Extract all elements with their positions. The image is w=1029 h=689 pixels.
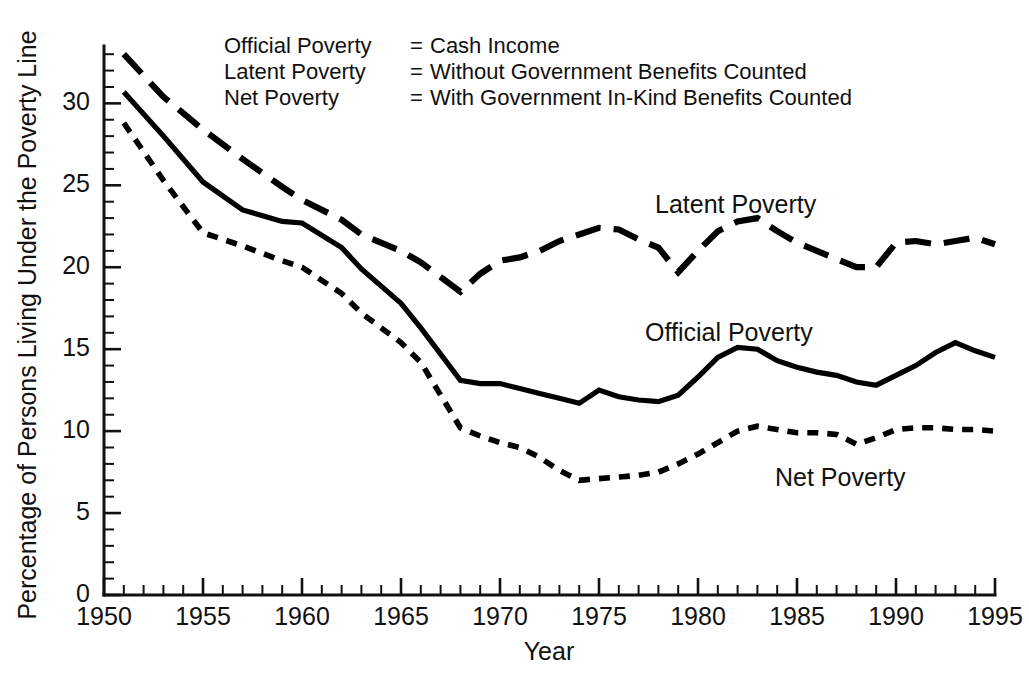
legend-row-0-name: Official Poverty	[224, 33, 372, 58]
legend-row-1-equals: =	[410, 59, 423, 84]
x-tick-label-1975: 1975	[571, 602, 627, 630]
legend-row-2-definition: With Government In-Kind Benefits Counted	[430, 85, 852, 110]
poverty-line-chart: Percentage of Persons Living Under the P…	[0, 0, 1029, 689]
legend-block: Official Poverty = Cash Income Latent Po…	[224, 33, 852, 110]
series-line-net-poverty	[124, 123, 995, 480]
legend-row-0-definition: Cash Income	[430, 33, 560, 58]
x-tick-label-1995: 1995	[967, 602, 1023, 630]
legend-row-1-definition: Without Government Benefits Counted	[430, 59, 807, 84]
y-tick-label-30: 30	[62, 87, 90, 115]
legend-row-2-name: Net Poverty	[224, 85, 339, 110]
x-axis-title: Year	[524, 637, 575, 665]
x-tick-label-1980: 1980	[670, 602, 726, 630]
legend-row-2-equals: =	[410, 85, 423, 110]
x-axis-ticks	[104, 578, 995, 595]
x-tick-label-1965: 1965	[373, 602, 429, 630]
x-tick-label-1990: 1990	[868, 602, 924, 630]
y-tick-label-20: 20	[62, 251, 90, 279]
series-paths	[124, 54, 995, 480]
y-axis-title: Percentage of Persons Living Under the P…	[13, 30, 41, 619]
x-axis-tick-labels: 1950195519601965197019751980198519901995	[76, 602, 1023, 630]
y-axis-ticks	[104, 54, 121, 595]
legend-row-1-name: Latent Poverty	[224, 59, 366, 84]
y-tick-label-5: 5	[76, 497, 90, 525]
series-annotation-latent: Latent Poverty	[655, 190, 817, 218]
x-tick-label-1960: 1960	[274, 602, 330, 630]
series-annotation-net: Net Poverty	[775, 463, 906, 491]
y-tick-label-10: 10	[62, 415, 90, 443]
chart-figure: Percentage of Persons Living Under the P…	[0, 0, 1029, 689]
x-tick-label-1985: 1985	[769, 602, 825, 630]
legend-row-0-equals: =	[410, 33, 423, 58]
x-tick-label-1970: 1970	[472, 602, 528, 630]
y-tick-label-25: 25	[62, 169, 90, 197]
series-annotation-official: Official Poverty	[645, 318, 813, 346]
x-tick-label-1955: 1955	[175, 602, 231, 630]
y-tick-label-15: 15	[62, 333, 90, 361]
y-axis-tick-labels: 051015202530	[62, 87, 90, 607]
axis-lines	[104, 46, 995, 595]
x-tick-label-1950: 1950	[76, 602, 132, 630]
